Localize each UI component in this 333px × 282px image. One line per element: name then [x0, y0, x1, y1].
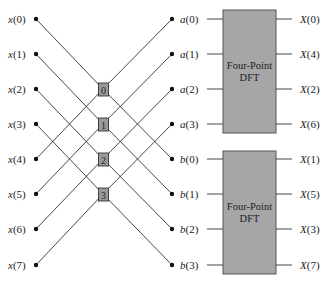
output-label: X(5): [299, 188, 320, 201]
input-dots: [34, 17, 38, 267]
input-dot: [34, 87, 38, 91]
input-label: x(5): [7, 188, 26, 201]
butterfly-box-3: 3: [99, 188, 109, 201]
intermediate-labels: a(0) a(1) a(2) a(3) b(0) b(1) b(2) b(3): [180, 13, 199, 272]
output-label: X(0): [299, 13, 320, 26]
input-dot: [34, 192, 38, 196]
a-dot: [170, 87, 174, 91]
dft-block-bottom: Four-Point DFT: [223, 151, 276, 274]
b-dot: [170, 227, 174, 231]
dft-block-subtitle: DFT: [240, 72, 260, 83]
input-label: x(0): [7, 13, 26, 26]
a-dot: [170, 122, 174, 126]
butterfly-lines: [36, 19, 172, 265]
output-label: X(4): [299, 48, 320, 61]
input-dot: [34, 227, 38, 231]
dft-block-title: Four-Point: [227, 201, 272, 212]
output-label: X(3): [299, 223, 320, 236]
a-dot: [170, 17, 174, 21]
a-label: a(0): [180, 13, 199, 26]
input-dot: [34, 263, 38, 267]
input-dot: [34, 122, 38, 126]
b-label: b(3): [180, 259, 199, 272]
butterfly-box-1: 1: [99, 118, 109, 131]
input-label: x(7): [7, 259, 26, 272]
butterfly-label: 2: [101, 155, 106, 166]
output-label: X(1): [299, 153, 320, 166]
butterfly-boxes: 0 1 2 3: [99, 83, 109, 201]
input-dot: [34, 52, 38, 56]
output-label: X(6): [299, 118, 320, 131]
butterfly-label: 3: [101, 190, 106, 201]
a-dot: [170, 52, 174, 56]
butterfly-label: 1: [101, 120, 106, 131]
b-dot: [170, 157, 174, 161]
intermediate-dots: [170, 17, 174, 267]
b-label: b(0): [180, 153, 199, 166]
output-labels: X(0) X(4) X(2) X(6) X(1) X(5) X(3) X(7): [299, 13, 320, 272]
output-label: X(2): [299, 83, 320, 96]
input-label: x(6): [7, 223, 26, 236]
input-label: x(3): [7, 118, 26, 131]
block-output-stubs: [276, 19, 292, 265]
block-input-stubs: [207, 19, 223, 265]
a-label: a(3): [180, 118, 199, 131]
butterfly-label: 0: [101, 85, 106, 96]
a-label: a(2): [180, 83, 199, 96]
dft-block-title: Four-Point: [227, 60, 272, 71]
input-dot: [34, 157, 38, 161]
dft-block-top: Four-Point DFT: [223, 10, 276, 133]
fft-butterfly-diagram: x(0) x(1) x(2) x(3) x(4) x(5) x(6) x(7) …: [0, 0, 333, 282]
output-label: X(7): [299, 259, 320, 272]
input-label-group: x(0) x(1) x(2) x(3) x(4) x(5) x(6) x(7): [7, 13, 26, 272]
input-dot: [34, 17, 38, 21]
a-label: a(1): [180, 48, 199, 61]
b-dot: [170, 192, 174, 196]
butterfly-box-2: 2: [99, 153, 109, 166]
b-dot: [170, 263, 174, 267]
input-label: x(2): [7, 83, 26, 96]
b-label: b(2): [180, 223, 199, 236]
b-label: b(1): [180, 188, 199, 201]
input-label: x(4): [7, 153, 26, 166]
input-label: x(1): [7, 48, 26, 61]
butterfly-box-0: 0: [99, 83, 109, 96]
dft-block-subtitle: DFT: [240, 213, 260, 224]
